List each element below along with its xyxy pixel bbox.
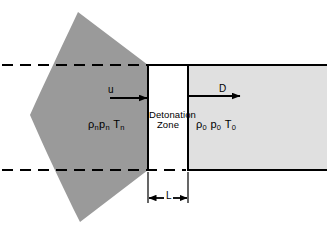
downstream-density-symbol: ρ: [88, 118, 95, 130]
detonation-wave-diagram: u D Detonation Zone ρnpn Tn ρ0 p0 T0 L: [0, 0, 327, 230]
upstream-temperature-subscript: 0: [232, 123, 236, 132]
detonation-products-region: [30, 12, 148, 222]
particle-velocity-label: u: [108, 85, 114, 96]
upstream-temperature-symbol: T: [225, 118, 232, 130]
detonation-zone-label: Detonation Zone: [149, 110, 187, 130]
downstream-pressure-subscript: n: [105, 123, 109, 132]
detonation-zone-label-line2: Zone: [149, 120, 187, 130]
detonation-velocity-label: D: [219, 84, 226, 95]
upstream-state-labels: ρ0 p0 T0: [196, 119, 236, 131]
downstream-temperature-subscript: n: [120, 123, 124, 132]
downstream-state-labels: ρnpn Tn: [88, 119, 125, 131]
upstream-pressure-symbol: p: [210, 118, 216, 130]
upstream-density-symbol: ρ: [196, 118, 203, 130]
upstream-pressure-subscript: 0: [217, 123, 221, 132]
downstream-density-subscript: n: [95, 123, 99, 132]
zone-length-label: L: [166, 191, 172, 202]
upstream-density-subscript: 0: [203, 123, 207, 132]
